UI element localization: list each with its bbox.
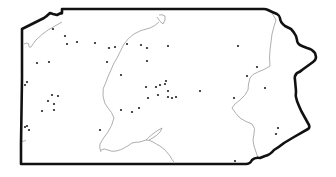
rivers-layer — [21, 10, 276, 162]
location-dot — [108, 47, 110, 49]
location-dot — [48, 61, 50, 63]
location-dot — [256, 66, 258, 68]
location-dot — [199, 90, 201, 92]
location-dot — [146, 60, 148, 62]
location-dot — [126, 43, 128, 45]
location-dot — [157, 94, 159, 96]
location-dot — [24, 84, 26, 86]
location-dot — [53, 103, 55, 105]
location-dot — [28, 129, 30, 131]
location-dot — [146, 47, 148, 49]
location-dot — [159, 84, 161, 86]
location-dot — [145, 86, 147, 88]
location-dot — [233, 97, 235, 99]
location-dot — [114, 46, 116, 48]
pennsylvania-map — [0, 0, 336, 177]
location-dot — [275, 133, 277, 135]
location-dot — [99, 129, 101, 131]
location-dot — [165, 80, 167, 82]
river-juniata-susquehanna — [100, 82, 114, 152]
river-potomac-headwaters — [101, 140, 174, 162]
river-delaware-upper — [232, 10, 276, 108]
location-dot — [171, 97, 173, 99]
location-dot — [53, 109, 55, 111]
location-dot — [175, 96, 177, 98]
location-dot — [264, 87, 266, 89]
location-dot — [57, 95, 59, 97]
location-dot — [237, 45, 239, 47]
location-dot — [66, 43, 68, 45]
state-outline — [21, 9, 316, 164]
location-dot — [120, 74, 122, 76]
location-dot — [167, 45, 169, 47]
map-canvas — [0, 0, 336, 177]
location-dot — [167, 90, 169, 92]
location-dot — [52, 28, 54, 30]
location-dot — [277, 127, 279, 129]
river-lehigh-schuylkill — [232, 108, 258, 158]
location-dot — [106, 61, 108, 63]
location-dot — [234, 160, 236, 162]
location-dot — [155, 86, 157, 88]
location-dot — [47, 100, 49, 102]
location-dot — [51, 94, 53, 96]
location-dot — [64, 35, 66, 37]
location-dot — [120, 109, 122, 111]
location-dot — [164, 83, 166, 85]
river-west-branch-susquehanna — [106, 22, 159, 82]
location-dot — [131, 111, 133, 113]
points-layer — [24, 28, 279, 162]
location-dot — [36, 62, 38, 64]
river-potomac-loop — [146, 128, 162, 140]
location-dot — [147, 97, 149, 99]
location-dot — [76, 41, 78, 43]
location-dot — [26, 125, 28, 127]
location-dot — [94, 42, 96, 44]
location-dot — [24, 126, 26, 128]
location-dot — [167, 96, 169, 98]
location-dot — [138, 107, 140, 109]
location-dot — [246, 75, 248, 77]
location-dot — [41, 110, 43, 112]
location-dot — [26, 81, 28, 83]
location-dot — [140, 44, 142, 46]
